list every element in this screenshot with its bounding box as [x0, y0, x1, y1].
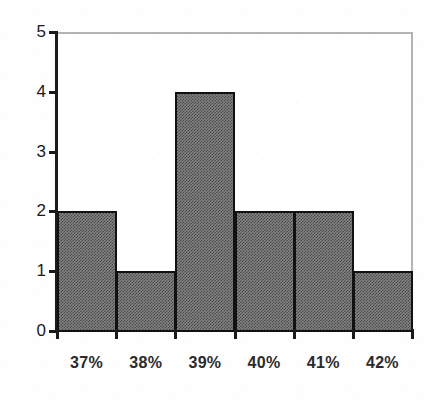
- y-tick-4: [49, 91, 58, 94]
- bar-3: [235, 211, 295, 332]
- x-tick-0: [56, 329, 59, 339]
- x-tick-label-37: 37%: [57, 355, 117, 371]
- bar-5: [353, 271, 413, 332]
- x-tick-6: [411, 329, 414, 339]
- x-tick-label-40: 40%: [234, 355, 294, 371]
- x-tick-3: [234, 329, 237, 339]
- x-tick-4: [293, 329, 296, 339]
- y-tick-label-5: 5: [22, 23, 46, 40]
- y-tick-5: [49, 31, 58, 34]
- y-tick-3: [49, 151, 58, 154]
- histogram-figure: 0 1 2 3 4 5 37% 38% 39% 40% 41% 42%: [0, 0, 430, 400]
- y-tick-label-3: 3: [22, 143, 46, 160]
- bar-4: [294, 211, 354, 332]
- bar-0: [57, 211, 117, 332]
- x-tick-5: [352, 329, 355, 339]
- x-tick-label-42: 42%: [352, 355, 412, 371]
- x-tick-label-38: 38%: [116, 355, 176, 371]
- x-tick-label-39: 39%: [175, 355, 235, 371]
- y-tick-1: [49, 270, 58, 273]
- y-tick-2: [49, 210, 58, 213]
- bar-1: [116, 271, 176, 332]
- x-tick-2: [174, 329, 177, 339]
- y-tick-label-4: 4: [22, 83, 46, 100]
- x-tick-label-41: 41%: [293, 355, 353, 371]
- bar-2: [175, 92, 235, 332]
- x-tick-1: [115, 329, 118, 339]
- y-tick-label-0: 0: [22, 322, 46, 339]
- y-tick-label-2: 2: [22, 202, 46, 219]
- y-tick-label-1: 1: [22, 262, 46, 279]
- plot-frame-top: [57, 32, 413, 34]
